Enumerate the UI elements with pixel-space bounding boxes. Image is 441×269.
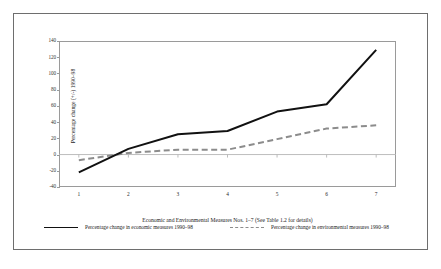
y-tick-mark — [57, 187, 60, 188]
legend-label-environmental: Percentage change in environmental measu… — [271, 224, 389, 230]
x-tick-label: 1 — [70, 191, 88, 197]
y-tick-label: -20 — [30, 168, 56, 173]
legend-label-economic: Percentage change in economic measures 1… — [85, 224, 193, 230]
y-tick-mark — [57, 57, 60, 58]
y-tick-mark — [57, 41, 60, 42]
y-tick-label: 40 — [30, 120, 56, 125]
y-tick-label: 20 — [30, 136, 56, 141]
x-tick-label: 3 — [169, 191, 187, 197]
chart-legend: Percentage change in economic measures 1… — [44, 220, 412, 234]
y-tick-label: 0 — [30, 152, 56, 157]
plot-wrapper: Percentage change (+/-) 1990–98 14012010… — [59, 41, 396, 187]
y-tick-label: 80 — [30, 87, 56, 92]
chart-svg — [59, 41, 396, 187]
y-tick-mark — [57, 106, 60, 107]
y-tick-label: 100 — [30, 71, 56, 76]
y-tick-mark — [57, 138, 60, 139]
y-tick-mark — [57, 155, 60, 156]
x-tick-label: 5 — [268, 191, 286, 197]
y-tick-label: -40 — [30, 184, 56, 189]
x-tick-label: 4 — [219, 191, 237, 197]
series-line-economic — [79, 50, 376, 172]
y-tick-label: 120 — [30, 55, 56, 60]
legend-item-economic: Percentage change in economic measures 1… — [44, 224, 230, 230]
y-tick-mark — [57, 73, 60, 74]
legend-item-environmental: Percentage change in environmental measu… — [230, 224, 412, 230]
legend-swatch-solid-line-icon — [44, 224, 78, 230]
figure-frame: Percentage change (+/-) 1990–98 14012010… — [13, 13, 428, 250]
y-tick-label: 140 — [30, 38, 56, 43]
y-tick-mark — [57, 90, 60, 91]
y-tick-mark — [57, 122, 60, 123]
x-tick-label: 2 — [119, 191, 137, 197]
y-tick-label: 60 — [30, 103, 56, 108]
y-tick-mark — [57, 171, 60, 172]
x-tick-label: 6 — [318, 191, 336, 197]
x-tick-label: 7 — [367, 191, 385, 197]
legend-swatch-dashed-line-icon — [230, 224, 264, 230]
